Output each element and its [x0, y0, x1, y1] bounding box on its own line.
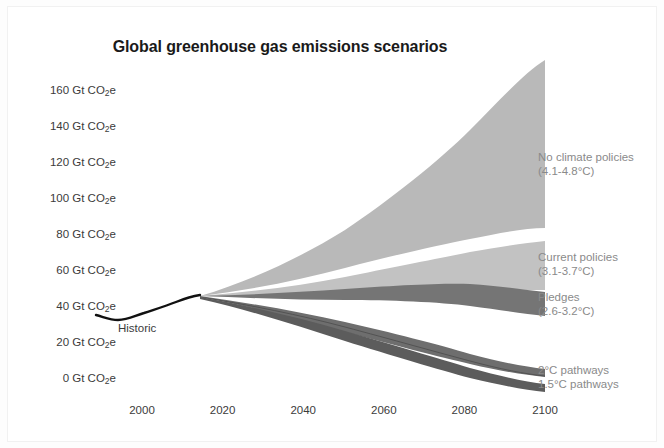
legend-current-policies-label: Current policies — [538, 251, 618, 263]
legend-current-policies: Current policies (3.1-3.7°C) — [538, 250, 618, 278]
historic-label: Historic — [118, 322, 156, 334]
legend-1-5c-pathways: 1.5°C pathways — [538, 377, 619, 391]
x-axis-tick: 2020 — [210, 404, 236, 416]
x-axis-tick: 2100 — [532, 404, 558, 416]
x-axis-tick: 2060 — [371, 404, 397, 416]
legend-no-climate-policies: No climate policies (4.1-4.8°C) — [538, 150, 634, 178]
x-axis-tick: 2040 — [290, 404, 316, 416]
band-1-5c-pathways — [200, 297, 545, 392]
legend-current-policies-range: (3.1-3.7°C) — [538, 264, 618, 278]
legend-2c-pathways: 2°C pathways — [538, 363, 609, 377]
historic-line — [96, 295, 200, 320]
legend-pledges: Pledges (2.6-3.2°C) — [538, 290, 594, 318]
x-axis-tick: 2080 — [452, 404, 478, 416]
x-axis-tick: 2000 — [129, 404, 155, 416]
legend-2c-pathways-label: 2°C pathways — [538, 364, 609, 376]
screenshot-root: Global greenhouse gas emissions scenario… — [0, 0, 664, 448]
legend-no-climate-policies-range: (4.1-4.8°C) — [538, 164, 634, 178]
legend-no-climate-policies-label: No climate policies — [538, 151, 634, 163]
legend-pledges-label: Pledges — [538, 291, 580, 303]
legend-1-5c-pathways-label: 1.5°C pathways — [538, 378, 619, 390]
legend-pledges-range: (2.6-3.2°C) — [538, 304, 594, 318]
